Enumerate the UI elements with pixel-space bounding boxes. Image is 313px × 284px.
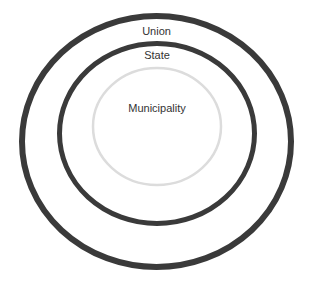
nested-circles-diagram: Union State Municipality: [0, 0, 313, 284]
union-label: Union: [142, 25, 171, 37]
state-label: State: [144, 49, 170, 61]
municipality-label: Municipality: [128, 102, 186, 114]
state-circle: [60, 44, 255, 224]
municipality-circle: [93, 68, 221, 185]
